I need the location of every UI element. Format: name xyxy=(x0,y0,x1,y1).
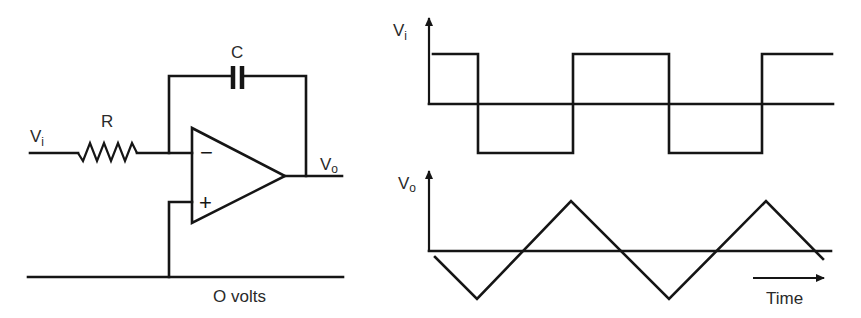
input-axis-label-main: V xyxy=(393,21,405,40)
circuit-input-label-main: V xyxy=(30,127,42,146)
output-waveform-plot: Vo Time xyxy=(398,171,831,308)
circuit-input-label: Vi xyxy=(30,127,44,149)
input-waveform-plot: Vi xyxy=(393,18,833,153)
inverting-input-symbol: − xyxy=(200,140,213,165)
circuit-output-label: Vo xyxy=(320,155,338,176)
input-axis-label-sub: i xyxy=(404,29,407,43)
input-axis-label: Vi xyxy=(393,21,407,43)
ground-label: O volts xyxy=(213,287,266,306)
non-inverting-input-symbol: + xyxy=(199,190,212,215)
output-axis-label-sub: o xyxy=(409,181,416,195)
integrator-diagram: − + Vi R C Vo O volts Vi Vo Time xyxy=(0,0,861,318)
capacitor-label: C xyxy=(231,43,243,62)
resistor-symbol xyxy=(78,143,137,161)
non-inverting-input-wire xyxy=(169,202,192,277)
output-axis-label-main: V xyxy=(398,174,410,193)
time-label: Time xyxy=(766,289,803,308)
integrator-circuit: − + Vi R C Vo O volts xyxy=(28,43,343,306)
circuit-output-label-main: V xyxy=(320,155,332,174)
output-axis-label: Vo xyxy=(398,174,416,195)
resistor-label: R xyxy=(101,112,113,131)
feedback-wire-right xyxy=(243,76,306,176)
circuit-output-label-sub: o xyxy=(331,162,338,176)
circuit-input-label-sub: i xyxy=(41,135,44,149)
